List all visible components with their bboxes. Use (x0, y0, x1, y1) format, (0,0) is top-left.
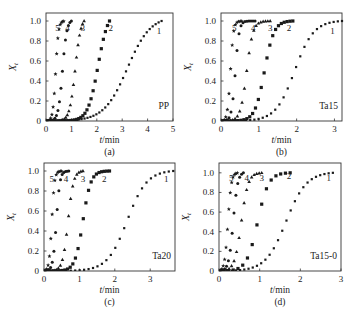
small-square-marker (290, 209, 292, 211)
square-marker (277, 24, 280, 27)
small-square-marker (119, 83, 121, 85)
square-marker (254, 106, 257, 109)
small-square-marker (337, 20, 339, 22)
dot-marker (67, 170, 70, 173)
y-tick-label: 0.6 (203, 207, 215, 217)
small-square-marker (83, 269, 85, 271)
y-tick-label: 0 (37, 116, 42, 126)
panel-caption: (a) (104, 147, 115, 158)
dot-marker (240, 24, 243, 27)
small-square-marker (105, 259, 107, 261)
triangle-marker (255, 172, 259, 175)
x-tick-label: 2 (113, 274, 118, 284)
small-square-marker (149, 28, 151, 30)
dot-marker (62, 52, 65, 55)
dot-marker (227, 259, 230, 262)
square-marker (236, 267, 239, 270)
dot-marker (61, 70, 64, 73)
y-axis-label: Xt (180, 212, 193, 222)
square-marker (83, 112, 86, 115)
curve-label: 4 (251, 23, 256, 33)
star-marker (50, 212, 54, 216)
dot-marker (232, 97, 235, 100)
square-marker (274, 28, 277, 31)
small-square-marker (311, 178, 313, 180)
y-tick-label: 0.4 (30, 76, 42, 86)
dot-marker (56, 109, 59, 112)
small-square-marker (333, 21, 335, 23)
series-3 (219, 19, 272, 122)
square-marker (274, 174, 277, 177)
small-square-marker (260, 262, 262, 264)
square-marker (82, 217, 85, 220)
y-tick-label: 0.4 (203, 227, 215, 237)
small-square-marker (266, 115, 268, 117)
series-2 (219, 19, 294, 122)
curve-label: 1 (327, 173, 332, 183)
small-square-marker (123, 227, 125, 229)
triangle-marker (230, 264, 234, 267)
x-tick-label: 1 (257, 274, 262, 284)
small-square-marker (116, 89, 118, 91)
x-tick-label: 0 (219, 124, 224, 134)
x-axis-label: t/min (99, 135, 119, 145)
triangle-marker (69, 197, 73, 200)
square-marker (257, 98, 260, 101)
curve-label: 1 (164, 174, 169, 184)
y-tick-label: 0.2 (28, 246, 39, 256)
y-tick-label: 1.0 (203, 168, 215, 178)
y-tick-label: 0.6 (28, 206, 40, 216)
x-tick-label: 0 (44, 124, 49, 134)
dot-marker (51, 261, 54, 264)
curve-label: 2 (287, 23, 292, 33)
y-tick-label: 0.6 (30, 56, 42, 66)
x-axis-label: t/min (270, 285, 290, 295)
small-square-marker (320, 25, 322, 27)
x-tick-label: 3 (332, 124, 337, 134)
square-marker (271, 34, 274, 37)
dot-marker (59, 87, 62, 90)
small-square-marker (86, 117, 88, 119)
triangle-marker (240, 218, 244, 221)
curve-label: 1 (157, 26, 162, 36)
sample-label: Ta15 (319, 101, 338, 111)
star-marker (230, 43, 234, 47)
small-square-marker (159, 172, 161, 174)
small-square-marker (315, 176, 317, 178)
small-square-marker (110, 99, 112, 101)
square-marker (89, 97, 92, 100)
y-tick-label: 0.8 (30, 36, 42, 46)
y-tick-label: 0.8 (28, 186, 40, 196)
square-marker (291, 19, 294, 22)
small-square-marker (101, 263, 103, 265)
star-marker (229, 67, 233, 71)
small-square-marker (114, 247, 116, 249)
y-tick-label: 1.0 (205, 16, 217, 26)
triangle-marker (78, 33, 82, 36)
small-square-marker (247, 268, 249, 270)
small-square-marker (154, 174, 156, 176)
x-tick-label: 0 (217, 274, 222, 284)
panel-a: 00.20.40.60.81.0012345Xtt/min(a)PP54321 (7, 13, 176, 158)
triangle-marker (247, 51, 251, 54)
small-square-marker (316, 28, 318, 30)
small-square-marker (79, 269, 81, 271)
y-tick-label: 0 (35, 266, 40, 276)
star-marker (47, 254, 51, 258)
square-marker (100, 47, 103, 50)
triangle-marker (63, 248, 67, 251)
small-square-marker (136, 195, 138, 197)
y-tick-label: 0 (212, 116, 217, 126)
small-square-marker (273, 247, 275, 249)
small-square-marker (249, 119, 251, 121)
small-square-marker (104, 106, 106, 108)
small-square-marker (302, 186, 304, 188)
square-marker (87, 103, 90, 106)
dot-marker (223, 268, 226, 271)
small-square-marker (319, 174, 321, 176)
small-square-marker (92, 115, 94, 117)
y-tick-label: 0.2 (30, 96, 41, 106)
small-square-marker (298, 192, 300, 194)
square-marker (79, 233, 82, 236)
curve-label: 4 (244, 173, 249, 183)
